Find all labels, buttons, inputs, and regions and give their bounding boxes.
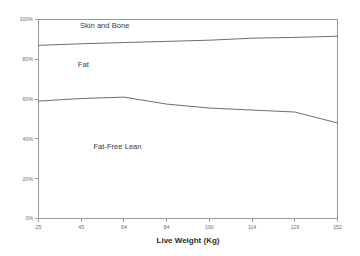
plot-area-frame <box>39 20 338 219</box>
x-axis-tick-label: 129 <box>290 224 299 230</box>
y-axis-tick-group <box>35 20 39 219</box>
band-label: Fat-Free Lean <box>93 142 141 151</box>
x-axis-tick-label: 45 <box>78 224 84 230</box>
series-line <box>39 97 338 123</box>
series-line <box>39 36 338 45</box>
x-axis-tick-label: 25 <box>36 224 42 230</box>
y-axis-tick-label: 20% <box>23 176 34 182</box>
band-label-group: Skin and BoneFatFat-Free Lean <box>78 21 142 150</box>
x-axis-tick-label: 114 <box>248 224 256 230</box>
y-axis-tick-label: 0% <box>26 215 34 221</box>
x-axis-tick-label: 100 <box>205 224 214 230</box>
series-group <box>39 36 338 123</box>
band-label: Fat <box>78 60 90 69</box>
band-label: Skin and Bone <box>80 21 129 30</box>
x-axis-tick-label: 152 <box>333 224 342 230</box>
y-axis-tick-label: 60% <box>23 96 34 102</box>
x-axis-tick-label: 64 <box>121 224 127 230</box>
y-axis-tick-label: 100% <box>20 16 34 22</box>
chart-container: 0%20%40%60%80%100% 25456484100114129152 … <box>0 0 360 256</box>
x-axis-tick-label: 84 <box>164 224 170 230</box>
x-axis-tick-group <box>39 219 338 223</box>
y-axis-labels: 0%20%40%60%80%100% <box>20 16 34 221</box>
x-axis-labels: 25456484100114129152 <box>36 224 342 230</box>
x-axis-title: Live Weight (Kg) <box>157 236 220 245</box>
body-composition-line-chart: 0%20%40%60%80%100% 25456484100114129152 … <box>0 0 360 256</box>
y-axis-tick-label: 40% <box>23 136 34 142</box>
y-axis-tick-label: 80% <box>23 56 34 62</box>
